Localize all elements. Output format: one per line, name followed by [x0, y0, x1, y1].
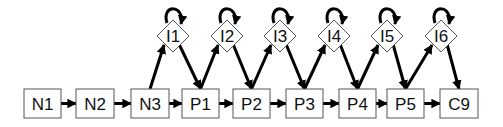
- arrow-i2-to-p2: [233, 44, 252, 89]
- arrow-i3-to-p3: [286, 44, 305, 89]
- box-label: C9: [448, 95, 470, 114]
- arrow-i4-to-p4: [340, 44, 358, 89]
- arrow-i6-to-c9: [447, 44, 459, 89]
- arrow-p1-to-i2: [201, 45, 219, 89]
- diamond-label: I4: [327, 27, 341, 46]
- box-label: N1: [32, 95, 54, 114]
- box-label: P5: [395, 95, 416, 114]
- flow-diagram: N1N2N3P1P2P3P4P5C9 I1I2I3I4I5I6: [0, 0, 503, 127]
- box-label: P3: [294, 95, 315, 114]
- box-node-p5: P5: [387, 89, 424, 118]
- box-node-p1: P1: [182, 89, 219, 118]
- diamond-label: I3: [273, 27, 287, 46]
- arrow-p2-to-i3: [252, 45, 272, 89]
- box-node-n1: N1: [24, 89, 61, 118]
- box-node-n3: N3: [131, 89, 169, 118]
- diamonds: I1I2I3I4I5I6: [157, 20, 457, 52]
- box-node-p2: P2: [233, 89, 270, 118]
- boxes: N1N2N3P1P2P3P4P5C9: [24, 89, 478, 118]
- arrow-n3-to-i1: [150, 45, 164, 89]
- box-label: N2: [84, 95, 106, 114]
- arrow-i5-to-p5: [393, 44, 406, 89]
- diamond-label: I2: [220, 27, 234, 46]
- diamond-label: I6: [434, 27, 448, 46]
- diamond-label: I1: [166, 27, 180, 46]
- arrow-p3-to-i4: [305, 45, 326, 89]
- box-node-n2: N2: [76, 89, 114, 118]
- box-node-c9: C9: [440, 89, 478, 118]
- arrow-p5-to-i6: [406, 45, 433, 89]
- box-label: N3: [139, 95, 161, 114]
- arrow-p4-to-i5: [358, 45, 379, 89]
- arrow-i1-to-p1: [179, 44, 201, 89]
- box-label: P4: [347, 95, 368, 114]
- diamond-label: I5: [380, 27, 394, 46]
- box-node-p3: P3: [286, 89, 323, 118]
- box-label: P2: [241, 95, 262, 114]
- box-node-p4: P4: [339, 89, 376, 118]
- box-label: P1: [190, 95, 211, 114]
